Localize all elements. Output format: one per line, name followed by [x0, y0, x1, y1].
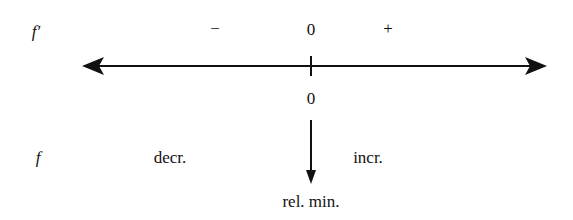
sign-positive: +: [383, 20, 393, 37]
sign-zero: 0: [307, 21, 316, 38]
sign-chart-diagram: [0, 0, 573, 220]
sign-negative: −: [210, 20, 220, 37]
relative-minimum-label: rel. min.: [282, 193, 339, 210]
critical-value: 0: [307, 90, 316, 107]
number-line: [82, 56, 547, 76]
decreasing-label: decr.: [154, 149, 187, 166]
increasing-label: incr.: [353, 149, 383, 166]
down-arrow-icon: [306, 120, 316, 184]
f-prime-label: f′: [32, 23, 40, 40]
f-label: f: [36, 149, 41, 166]
